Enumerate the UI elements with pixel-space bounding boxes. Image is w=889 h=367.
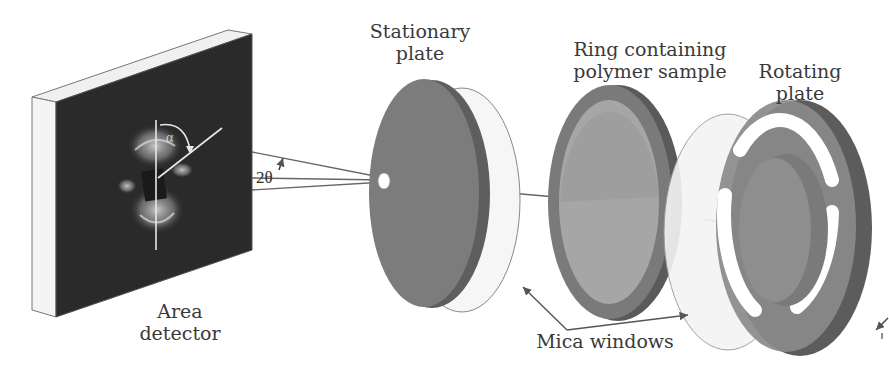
rotating-plate-label: Rotating plate — [740, 60, 860, 104]
stationary-plate — [369, 79, 520, 312]
rotation-arrow-icon — [876, 318, 888, 330]
area-detector — [32, 30, 252, 317]
ring-label: Ring containing polymer sample — [565, 38, 735, 82]
stationary-plate-label: Stationary plate — [345, 20, 495, 64]
beam-hole — [378, 173, 390, 189]
two-theta-arrow-icon — [279, 158, 283, 170]
area-detector-label: Area detector — [120, 300, 240, 344]
two-theta-symbol: 2θ — [256, 168, 273, 188]
mica-windows-label: Mica windows — [520, 330, 690, 352]
sample-ring — [548, 85, 682, 321]
rotating-plate — [716, 100, 872, 356]
alpha-symbol: α — [166, 130, 173, 146]
